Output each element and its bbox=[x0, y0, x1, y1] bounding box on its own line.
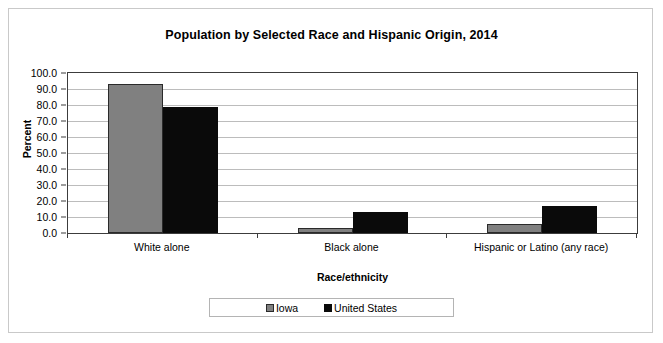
y-tick-label: 20.0 bbox=[37, 195, 57, 207]
y-tick-mark bbox=[61, 137, 66, 138]
legend-label: Iowa bbox=[276, 302, 298, 314]
y-axis-ticks: 100.090.080.070.060.050.040.030.020.010.… bbox=[9, 72, 63, 233]
chart-legend: IowaUnited States bbox=[209, 298, 454, 317]
y-tick-mark bbox=[61, 153, 66, 154]
y-tick-mark bbox=[61, 201, 66, 202]
legend-swatch-icon bbox=[266, 304, 274, 312]
y-tick-label: 90.0 bbox=[37, 83, 57, 95]
y-tick-mark bbox=[61, 185, 66, 186]
y-tick-mark bbox=[61, 121, 66, 122]
chart-figure: Population by Selected Race and Hispanic… bbox=[8, 8, 653, 333]
y-tick-mark bbox=[61, 217, 66, 218]
x-axis-label: Race/ethnicity bbox=[67, 271, 638, 283]
x-tick-label: Black alone bbox=[324, 241, 378, 253]
x-tick-label: White alone bbox=[134, 241, 189, 253]
x-tick-mark bbox=[636, 233, 637, 238]
y-tick-label: 0.0 bbox=[42, 227, 57, 239]
y-tick-mark bbox=[61, 73, 66, 74]
y-tick-label: 60.0 bbox=[37, 131, 57, 143]
bars-layer bbox=[68, 73, 637, 233]
plot-area bbox=[67, 72, 638, 234]
bar-united-states-hispanic-or-latino-any-race- bbox=[542, 206, 597, 233]
y-tick-label: 100.0 bbox=[31, 67, 57, 79]
y-tick-mark bbox=[61, 89, 66, 90]
y-tick-label: 30.0 bbox=[37, 179, 57, 191]
y-tick-mark bbox=[61, 233, 66, 234]
chart-title: Population by Selected Race and Hispanic… bbox=[9, 28, 654, 42]
legend-swatch-icon bbox=[324, 304, 332, 312]
x-tick-mark bbox=[257, 233, 258, 238]
x-tick-mark bbox=[67, 233, 68, 238]
x-axis-ticks: White aloneBlack aloneHispanic or Latino… bbox=[67, 233, 638, 255]
legend-item-united-states[interactable]: United States bbox=[324, 302, 397, 314]
x-tick-label: Hispanic or Latino (any race) bbox=[474, 241, 608, 253]
bar-united-states-white-alone bbox=[163, 107, 218, 233]
bar-iowa-white-alone bbox=[108, 84, 163, 233]
bar-iowa-hispanic-or-latino-any-race- bbox=[487, 224, 542, 233]
y-tick-label: 70.0 bbox=[37, 115, 57, 127]
bar-united-states-black-alone bbox=[353, 212, 408, 233]
y-tick-label: 40.0 bbox=[37, 163, 57, 175]
y-tick-label: 50.0 bbox=[37, 147, 57, 159]
x-tick-mark bbox=[446, 233, 447, 238]
y-tick-label: 80.0 bbox=[37, 99, 57, 111]
y-tick-mark bbox=[61, 105, 66, 106]
y-tick-label: 10.0 bbox=[37, 211, 57, 223]
legend-label: United States bbox=[334, 302, 397, 314]
y-tick-mark bbox=[61, 169, 66, 170]
legend-item-iowa[interactable]: Iowa bbox=[266, 302, 298, 314]
